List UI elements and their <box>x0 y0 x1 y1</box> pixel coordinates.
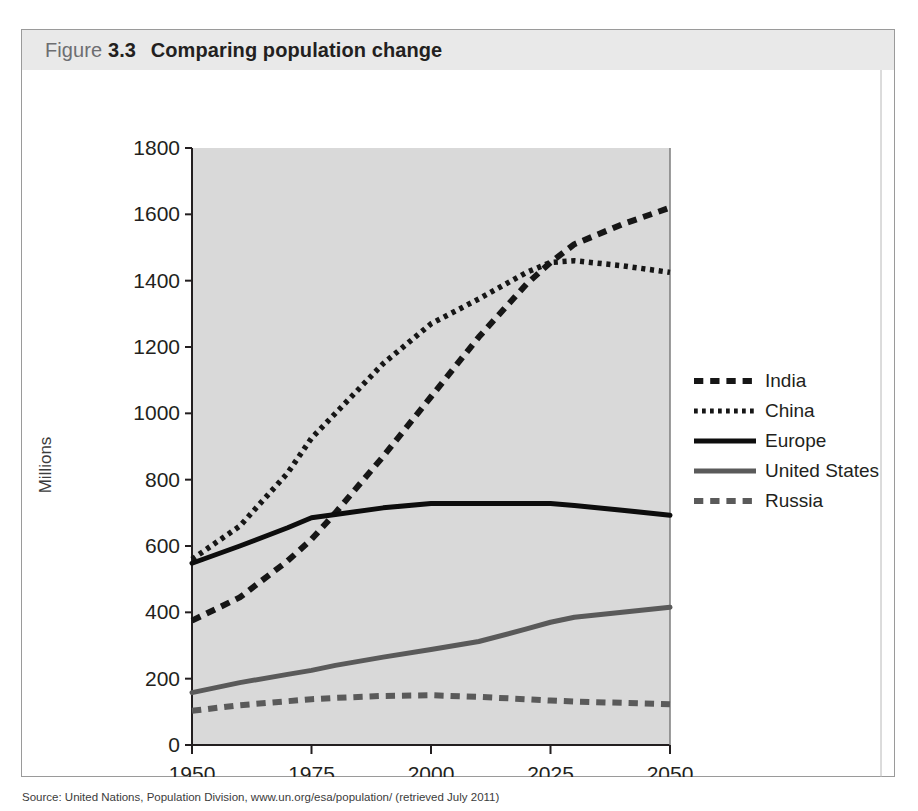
legend-swatch-dashed-icon <box>694 494 756 508</box>
plot-background <box>192 148 670 745</box>
svg-text:2050: 2050 <box>647 762 694 777</box>
svg-text:600: 600 <box>145 534 180 557</box>
legend-swatch-dotted-icon <box>694 404 756 418</box>
legend-swatch-solid-icon <box>694 464 756 478</box>
chart-area: Millions 0200400600800100012001400160018… <box>22 70 894 777</box>
figure-card: Figure 3.3 Comparing population change M… <box>21 29 895 777</box>
svg-text:800: 800 <box>145 468 180 491</box>
svg-text:200: 200 <box>145 667 180 690</box>
figure-source-caption: Source: United Nations, Population Divis… <box>22 791 882 809</box>
legend-swatch-dashed-icon <box>694 374 756 388</box>
y-axis-tick-labels: 020040060080010001200140016001800 <box>133 136 180 756</box>
svg-text:2025: 2025 <box>527 762 574 777</box>
chart-legend: IndiaChinaEuropeUnited StatesRussia <box>694 366 894 516</box>
legend-item-russia[interactable]: Russia <box>694 486 894 516</box>
svg-text:2000: 2000 <box>408 762 455 777</box>
legend-label: China <box>765 400 815 422</box>
legend-item-united-states[interactable]: United States <box>694 456 894 486</box>
svg-text:0: 0 <box>168 733 180 756</box>
legend-item-china[interactable]: China <box>694 396 894 426</box>
svg-text:1800: 1800 <box>133 136 180 159</box>
legend-label: Russia <box>765 490 823 512</box>
legend-item-europe[interactable]: Europe <box>694 426 894 456</box>
svg-text:1000: 1000 <box>133 401 180 424</box>
figure-title: Figure 3.3 Comparing population change <box>45 39 442 62</box>
svg-text:1975: 1975 <box>288 762 335 777</box>
svg-text:1950: 1950 <box>169 762 216 777</box>
x-axis-tick-labels: 19501975200020252050 <box>169 762 694 777</box>
svg-text:1400: 1400 <box>133 269 180 292</box>
svg-text:1200: 1200 <box>133 335 180 358</box>
figure-number: 3.3 <box>108 39 136 61</box>
legend-label: India <box>765 370 806 392</box>
legend-label: Europe <box>765 430 826 452</box>
figure-label: Figure <box>45 39 102 61</box>
svg-text:400: 400 <box>145 600 180 623</box>
figure-title-text: Comparing population change <box>151 39 443 61</box>
svg-text:1600: 1600 <box>133 202 180 225</box>
legend-label: United States <box>765 460 879 482</box>
legend-item-india[interactable]: India <box>694 366 894 396</box>
legend-swatch-solid-icon <box>694 434 756 448</box>
